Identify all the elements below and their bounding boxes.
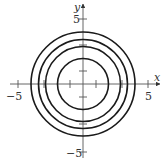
y-tick-label-5: 5 [73, 13, 80, 26]
y-tick-label-neg5: −5 [66, 147, 82, 159]
x-tick-label-neg5: −5 [6, 90, 22, 103]
x-axis-label: x [154, 71, 161, 84]
x-tick-label-5: 5 [145, 90, 152, 103]
coordinate-plot: x y −5 5 5 −5 [0, 0, 165, 159]
